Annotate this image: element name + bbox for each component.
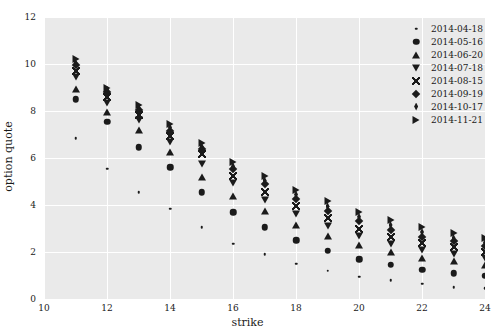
- legend-label: 2014-06-20: [427, 50, 483, 60]
- data-point: [387, 233, 395, 241]
- data-point: [74, 137, 77, 140]
- legend-label: 2014-10-17: [427, 102, 483, 112]
- legend-marker-point-icon: [405, 22, 427, 35]
- legend-label: 2014-05-16: [427, 37, 483, 47]
- x-tick-label: 12: [101, 303, 112, 313]
- legend-marker-circle-icon: [405, 35, 427, 48]
- legend-label: 2014-11-21: [427, 115, 483, 125]
- y-tick-label: 2: [4, 247, 36, 257]
- data-point: [324, 248, 331, 255]
- data-point: [135, 126, 143, 133]
- x-tick-label: 10: [38, 303, 49, 313]
- data-point: [260, 180, 268, 188]
- data-point: [452, 286, 455, 289]
- data-point: [323, 207, 331, 215]
- legend-label: 2014-08-15: [427, 76, 483, 86]
- legend-marker-x-icon: [405, 74, 427, 87]
- legend-marker-thin-diamond-icon: [405, 100, 427, 113]
- data-point: [261, 188, 269, 196]
- data-point: [324, 214, 332, 222]
- data-point: [261, 172, 268, 180]
- data-point: [71, 61, 79, 69]
- data-point: [261, 197, 269, 204]
- data-point: [389, 221, 393, 229]
- data-point: [72, 55, 79, 63]
- x-tick-label: 24: [479, 303, 490, 313]
- data-point: [326, 202, 330, 210]
- y-tick-label: 10: [4, 59, 36, 69]
- x-tick-label: 20: [353, 303, 364, 313]
- data-point: [389, 279, 392, 282]
- data-point: [450, 243, 458, 251]
- data-point: [261, 207, 269, 214]
- legend-marker-triangle-right-icon: [405, 113, 427, 126]
- x-tick-label: 16: [227, 303, 238, 313]
- data-point: [74, 59, 78, 67]
- data-point: [134, 106, 142, 114]
- data-point: [200, 226, 203, 229]
- y-axis-label: option quote: [2, 97, 15, 217]
- data-point: [450, 258, 458, 265]
- legend-item[interactable]: 2014-07-18: [405, 61, 483, 74]
- data-point: [72, 67, 80, 75]
- data-point: [452, 234, 456, 242]
- gridline-horizontal: [44, 252, 485, 253]
- x-tick-label: 22: [416, 303, 427, 313]
- legend-item[interactable]: 2014-06-20: [405, 48, 483, 61]
- legend-label: 2014-09-19: [427, 89, 483, 99]
- data-point: [72, 85, 80, 92]
- data-point: [386, 225, 394, 233]
- legend-item[interactable]: 2014-11-21: [405, 113, 483, 126]
- y-tick-label: 0: [4, 294, 36, 304]
- data-point: [198, 160, 206, 167]
- legend-label: 2014-04-18: [427, 24, 483, 34]
- x-tick-label: 18: [290, 303, 301, 313]
- data-point: [198, 173, 206, 180]
- data-point: [198, 139, 205, 147]
- data-point: [135, 144, 142, 151]
- legend-label: 2014-07-18: [427, 63, 483, 73]
- legend-item[interactable]: 2014-04-18: [405, 22, 483, 35]
- data-point: [450, 229, 457, 237]
- data-point: [72, 73, 80, 80]
- gridline-horizontal: [44, 158, 485, 159]
- data-point: [72, 96, 79, 103]
- data-point: [324, 232, 332, 239]
- legend-item[interactable]: 2014-05-16: [405, 35, 483, 48]
- data-point: [135, 101, 142, 109]
- legend-marker-triangle-up-icon: [405, 48, 427, 61]
- data-point: [197, 144, 205, 152]
- legend-item[interactable]: 2014-09-19: [405, 87, 483, 100]
- legend-marker-diamond-icon: [405, 87, 427, 100]
- legend-item[interactable]: 2014-08-15: [405, 74, 483, 87]
- scatter-chart-figure: 1012141618202224 024681012 strike option…: [0, 0, 495, 333]
- data-point: [449, 237, 457, 245]
- data-point: [450, 270, 457, 277]
- data-point: [198, 189, 205, 196]
- y-tick-label: 12: [4, 12, 36, 22]
- data-point: [263, 253, 266, 256]
- data-point: [135, 117, 143, 124]
- x-tick-label: 14: [164, 303, 175, 313]
- data-point: [263, 176, 267, 184]
- data-point: [324, 223, 332, 230]
- legend-marker-triangle-down-icon: [405, 61, 427, 74]
- data-point: [387, 262, 394, 269]
- data-point: [200, 142, 204, 150]
- data-point: [326, 270, 329, 273]
- data-point: [261, 224, 268, 231]
- x-axis-label: strike: [0, 316, 495, 329]
- legend-item[interactable]: 2014-10-17: [405, 100, 483, 113]
- data-point: [137, 191, 140, 194]
- legend: 2014-04-182014-05-162014-06-202014-07-18…: [401, 20, 487, 128]
- gridline-horizontal: [44, 17, 485, 18]
- data-point: [387, 216, 394, 224]
- data-point: [387, 240, 395, 247]
- gridline-horizontal: [44, 205, 485, 206]
